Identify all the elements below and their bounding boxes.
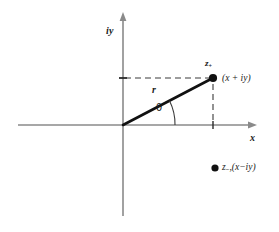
point-z-minus-label: z−,(x−iy) [222,163,256,173]
radius-label: r [152,85,156,95]
radius-vector [123,79,211,125]
imaginary-axis [120,12,127,216]
point-z-plus-expression: (x + iy) [222,74,251,84]
point-z-plus-marker [209,74,217,82]
real-axis-label: x [250,133,255,143]
point-z-plus-label: z+ [205,59,212,69]
point-z-minus-marker [211,164,218,171]
angle-label: θ [156,103,162,113]
imaginary-axis-label: iy [106,26,114,36]
point-z-minus-expression: ,(x−iy) [229,162,255,172]
figure-canvas [0,0,279,232]
real-axis [18,122,257,129]
point-z-plus-subscript: + [209,63,212,69]
angle-arc [170,101,176,125]
complex-plane-figure: iy x z+ (x + iy) z−,(x−iy) r θ [0,0,279,232]
